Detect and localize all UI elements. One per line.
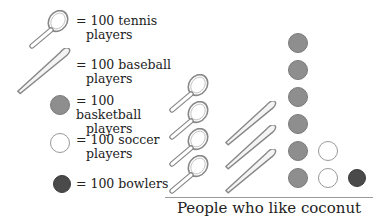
basketball-icon (288, 141, 308, 161)
basketball-icon (288, 114, 308, 134)
basketball-icon (288, 87, 308, 107)
bowling-ball-icon (348, 169, 366, 187)
tennis-racket-icon (168, 155, 212, 195)
soccer-ball-icon (318, 168, 338, 188)
basketball-icon (288, 33, 308, 53)
basketball-icon (288, 168, 308, 188)
soccer-ball-icon (318, 141, 338, 161)
x-axis-line (165, 197, 373, 198)
x-axis-label: People who like coconut (165, 199, 373, 217)
basketball-icon (288, 60, 308, 80)
pictograph-plot: People who like coconut (0, 0, 383, 221)
baseball-bat-icon (222, 149, 278, 195)
